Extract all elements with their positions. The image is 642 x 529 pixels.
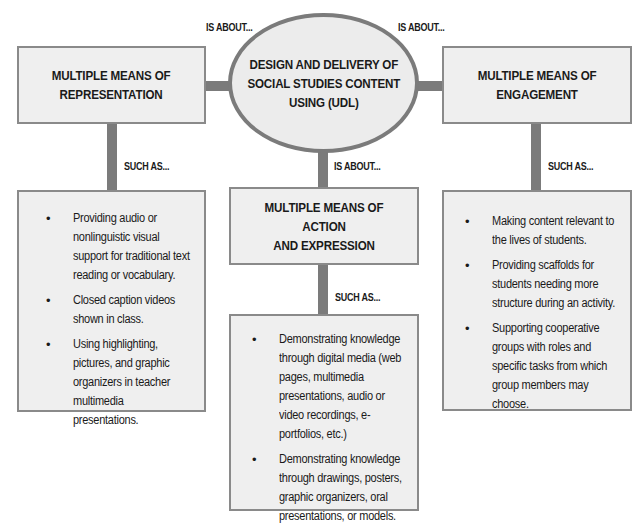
- engagement-examples-list: •Making content relevant to the lives of…: [458, 212, 618, 414]
- such-as-label-middle: SUCH AS...: [335, 291, 380, 303]
- central-topic-title: DESIGN AND DELIVERY OF SOCIAL STUDIES CO…: [247, 55, 400, 112]
- representation-examples-list: •Providing audio or nonlinguistic visual…: [39, 209, 190, 430]
- representation-title: MULTIPLE MEANS OF REPRESENTATION: [52, 66, 171, 104]
- action-expression-examples-box: •Demonstrating knowledge through digital…: [229, 314, 419, 511]
- bullet-icon: •: [252, 330, 256, 349]
- connector-left-vertical: [107, 123, 117, 191]
- bullet-icon: •: [465, 319, 469, 338]
- connector-center-right: [415, 81, 443, 91]
- engagement-examples-box: •Making content relevant to the lives of…: [442, 190, 632, 411]
- list-item: •Demonstrating knowledge through digital…: [245, 330, 405, 444]
- connector-right-vertical: [531, 123, 541, 191]
- is-about-label-left: IS ABOUT...: [206, 21, 252, 33]
- bullet-icon: •: [465, 212, 469, 231]
- list-item: •Providing scaffolds for students needin…: [458, 256, 618, 313]
- list-item: •Providing audio or nonlinguistic visual…: [39, 209, 190, 285]
- list-item: •Making content relevant to the lives of…: [458, 212, 618, 250]
- action-expression-box: MULTIPLE MEANS OF ACTION AND EXPRESSION: [229, 187, 419, 265]
- list-item: •Demonstrating knowledge through drawing…: [245, 450, 405, 526]
- is-about-label-bottom: IS ABOUT...: [334, 160, 380, 172]
- engagement-title: MULTIPLE MEANS OF ENGAGEMENT: [478, 66, 597, 104]
- bullet-icon: •: [465, 256, 469, 275]
- representation-box: MULTIPLE MEANS OF REPRESENTATION: [17, 46, 206, 124]
- such-as-label-right: SUCH AS...: [548, 160, 593, 172]
- is-about-label-right: IS ABOUT...: [398, 21, 444, 33]
- list-item: •Using highlighting, pictures, and graph…: [39, 335, 190, 430]
- action-expression-title: MULTIPLE MEANS OF ACTION AND EXPRESSION: [244, 198, 404, 255]
- action-expression-examples-list: •Demonstrating knowledge through digital…: [245, 330, 405, 526]
- bullet-icon: •: [46, 209, 50, 228]
- representation-examples-box: •Providing audio or nonlinguistic visual…: [17, 190, 206, 412]
- engagement-box: MULTIPLE MEANS OF ENGAGEMENT: [442, 46, 632, 124]
- bullet-icon: •: [252, 450, 256, 469]
- connector-center-bottom: [318, 150, 328, 188]
- list-item: •Supporting cooperative groups with role…: [458, 319, 618, 414]
- bullet-icon: •: [46, 335, 50, 354]
- connector-middle-vertical: [318, 263, 328, 315]
- such-as-label-left: SUCH AS...: [124, 160, 169, 172]
- bullet-icon: •: [46, 291, 50, 310]
- central-topic-ellipse: DESIGN AND DELIVERY OF SOCIAL STUDIES CO…: [228, 13, 419, 153]
- list-item: •Closed caption videos shown in class.: [39, 291, 190, 329]
